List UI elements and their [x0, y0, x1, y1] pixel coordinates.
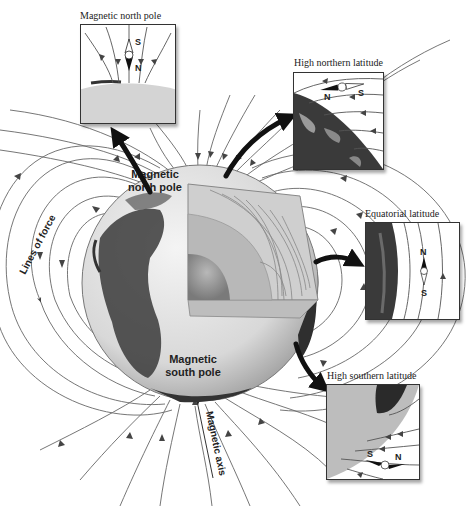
- inset-equatorial-latitude: N S: [365, 222, 460, 320]
- compass-label-s: S: [135, 37, 141, 47]
- inset-high-northern-latitude: N S: [293, 72, 384, 170]
- arrow-to-equatorial-inset: [316, 257, 356, 262]
- compass-label-n: N: [395, 452, 402, 462]
- caption-high-southern-latitude: High southern latitude: [327, 370, 416, 381]
- label-magnetic-south-pole-2: south pole: [165, 366, 221, 378]
- compass-label-s: S: [367, 449, 373, 459]
- compass-label-s: S: [358, 88, 364, 98]
- inset-high-southern-latitude: S N: [326, 384, 420, 480]
- compass-label-n: N: [135, 63, 142, 73]
- caption-magnetic-north-pole: Magnetic north pole: [80, 10, 161, 21]
- field-lines-bottom: [40, 385, 370, 506]
- label-magnetic-north-pole-2: north pole: [128, 181, 182, 193]
- label-magnetic-axis: Magnetic axis: [204, 410, 228, 477]
- arrow-to-high-southern-inset: [296, 344, 322, 386]
- label-magnetic-south-pole-1: Magnetic: [169, 353, 217, 365]
- earth-magnetic-field-diagram: Magnetic north pole Magnetic south pole …: [0, 0, 472, 506]
- caption-equatorial-latitude: Equatorial latitude: [365, 208, 439, 219]
- inset-magnetic-north-pole: S N: [80, 24, 176, 124]
- compass-label-n: N: [324, 92, 331, 102]
- caption-high-northern-latitude: High northern latitude: [294, 57, 383, 68]
- compass-label-s: S: [421, 288, 427, 298]
- compass-label-n: N: [420, 247, 427, 257]
